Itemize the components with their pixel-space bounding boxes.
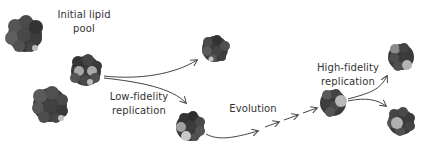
- evolution-arrow-dash-3: [303, 108, 317, 113]
- initial-pool-label: Initial lipid pool: [55, 9, 113, 35]
- low-fidelity-line2: replication: [108, 105, 170, 117]
- lipid-cluster-icon: [5, 15, 43, 52]
- hifi-arrow-down: [348, 99, 386, 106]
- lipid-cluster-icon: [387, 107, 415, 136]
- lipid-cluster-icon: [32, 86, 68, 123]
- lipid-cluster-icon: [70, 54, 102, 86]
- low-fidelity-line1: Low-fidelity: [108, 91, 170, 103]
- lipid-cluster-icon: [388, 43, 414, 71]
- evolution-arrow-solid: [206, 131, 258, 138]
- evolution-arrow-dash-2: [284, 115, 298, 120]
- initial-pool-line1: Initial lipid: [55, 9, 113, 21]
- evolution-label: Evolution: [228, 103, 278, 115]
- lowfi-arrow-up: [104, 60, 197, 77]
- evolution-arrow-dash-1: [265, 122, 279, 127]
- lipid-cluster-icon: [320, 89, 347, 117]
- initial-pool-line2: pool: [55, 23, 113, 35]
- high-fidelity-label: High-fidelity replication: [315, 62, 381, 88]
- high-fidelity-line2: replication: [315, 76, 381, 88]
- lipid-cluster-icon: [176, 111, 205, 141]
- low-fidelity-label: Low-fidelity replication: [108, 91, 170, 117]
- lipid-evolution-diagram: Initial lipid pool Low-fidelity replicat…: [0, 0, 428, 151]
- lipid-cluster-icon: [202, 35, 230, 62]
- high-fidelity-line1: High-fidelity: [315, 62, 381, 74]
